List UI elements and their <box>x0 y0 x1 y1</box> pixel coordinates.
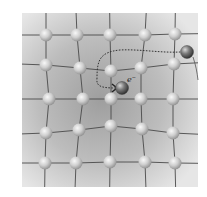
lattice-atom <box>40 59 53 72</box>
polaron-lattice-diagram: e− <box>0 0 207 197</box>
lattice-atom <box>105 65 118 78</box>
lattice-atom <box>40 127 53 140</box>
lattice-atom <box>169 157 182 170</box>
lattice-atom <box>135 62 148 75</box>
lattice-atom <box>167 93 180 106</box>
lattice-atom <box>105 93 118 106</box>
lattice-atom <box>77 93 90 106</box>
lattice-atom <box>73 124 86 137</box>
lattice-atom <box>139 29 152 42</box>
lattice-atom <box>70 157 83 170</box>
lattice-atom <box>104 156 117 169</box>
lattice-atom <box>43 93 56 106</box>
lattice-atom <box>135 93 148 106</box>
lattice-atom <box>168 58 181 71</box>
lattice-atom <box>71 29 84 42</box>
lattice-atom <box>136 123 149 136</box>
lattice-atom <box>104 29 117 42</box>
lattice-atom <box>40 29 53 42</box>
second-charge-sphere <box>181 46 194 59</box>
lattice-atom <box>139 156 152 169</box>
lattice-atom <box>39 157 52 170</box>
lattice-atom <box>74 62 87 75</box>
lattice-atom <box>167 127 180 140</box>
lattice-atom <box>169 28 182 41</box>
lattice-atom <box>105 120 118 133</box>
